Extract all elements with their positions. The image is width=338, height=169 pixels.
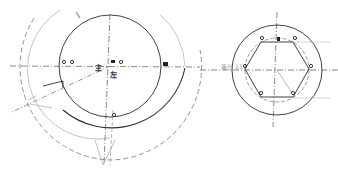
technical-drawing bbox=[0, 0, 338, 169]
dimension-leader-2 bbox=[28, 96, 36, 100]
center-block bbox=[111, 60, 115, 63]
vertical-centerline bbox=[104, 14, 110, 165]
tick-top bbox=[76, 12, 80, 18]
mark-main: 主 bbox=[95, 65, 102, 72]
hole-marker bbox=[309, 64, 312, 67]
thin-arc bbox=[27, 10, 110, 139]
hole-marker bbox=[70, 60, 73, 63]
hole-marker bbox=[119, 60, 122, 63]
left-view bbox=[10, 10, 202, 165]
hole-marker bbox=[112, 113, 115, 116]
right-view-label: 等分 13 bbox=[221, 64, 243, 70]
cut-notch bbox=[43, 81, 63, 88]
vertical-centerline-2 bbox=[110, 110, 113, 165]
hole-marker bbox=[62, 60, 65, 63]
hole-marker bbox=[259, 91, 262, 94]
dimension-leader bbox=[30, 104, 52, 108]
diagonal-right bbox=[277, 70, 292, 93]
diagonal-centerline bbox=[12, 66, 110, 112]
top-marker bbox=[277, 37, 280, 41]
right-marker bbox=[163, 62, 168, 66]
hole-marker bbox=[260, 36, 263, 39]
hexagon bbox=[245, 42, 309, 97]
hole-marker bbox=[293, 36, 296, 39]
vertical-centerline-right bbox=[273, 12, 277, 127]
horizontal-centerline bbox=[10, 66, 200, 67]
outer-dashed-arc bbox=[20, 18, 202, 160]
outer-solid-arc bbox=[63, 68, 185, 128]
thin-arc-right bbox=[160, 15, 185, 66]
mark-left: 左 bbox=[110, 72, 117, 79]
